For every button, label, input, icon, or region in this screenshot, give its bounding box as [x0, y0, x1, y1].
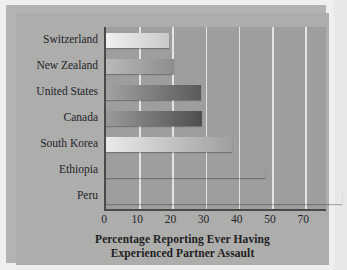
bar-south-korea	[106, 137, 232, 152]
x-axis-title: Percentage Reporting Ever Having Experie…	[26, 233, 339, 260]
category-label-united-states: United States	[16, 85, 98, 97]
x-tick-label-40: 40	[231, 213, 243, 225]
x-tick-label-20: 20	[165, 213, 177, 225]
category-label-canada: Canada	[16, 111, 98, 123]
x-axis-title-line-2: Experienced Partner Assault	[26, 247, 339, 261]
bar-row	[106, 189, 326, 204]
bar-row	[106, 85, 326, 100]
bar-series	[106, 27, 326, 209]
plot-area	[104, 27, 326, 211]
category-label-switzerland: Switzerland	[16, 33, 98, 45]
x-tick-label-0: 0	[101, 213, 107, 225]
bar-switzerland	[106, 33, 169, 48]
bar-row	[106, 59, 326, 74]
x-axis-title-line-1: Percentage Reporting Ever Having	[26, 233, 339, 247]
category-label-peru: Peru	[16, 189, 98, 201]
chart-panel: SwitzerlandNew ZealandUnited StatesCanad…	[16, 13, 329, 265]
bar-peru	[106, 189, 342, 204]
category-label-south-korea: South Korea	[16, 137, 98, 149]
bar-row	[106, 137, 326, 152]
x-tick-label-10: 10	[131, 213, 143, 225]
bar-united-states	[106, 85, 201, 100]
value-axis-labels: 0102030405070	[104, 213, 326, 231]
bar-row	[106, 163, 326, 178]
category-label-ethiopia: Ethiopia	[16, 163, 98, 175]
x-tick-label-50: 50	[264, 213, 276, 225]
x-tick-label-70: 70	[297, 213, 309, 225]
bar-row	[106, 33, 326, 48]
bar-new-zealand	[106, 59, 174, 74]
bar-row	[106, 111, 326, 126]
bar-ethiopia	[106, 163, 265, 178]
bar-canada	[106, 111, 202, 126]
figure-mat: SwitzerlandNew ZealandUnited StatesCanad…	[6, 5, 326, 263]
x-tick-label-30: 30	[198, 213, 210, 225]
category-label-new-zealand: New Zealand	[16, 59, 98, 71]
